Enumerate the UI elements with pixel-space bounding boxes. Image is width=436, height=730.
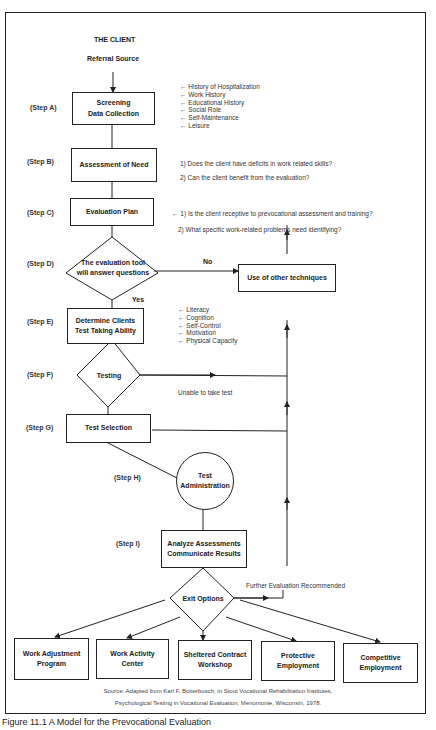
step-h-label: (Step H) bbox=[114, 474, 141, 481]
step-i-label: (Step I) bbox=[116, 540, 140, 547]
exit-options-decision[interactable]: Exit Options bbox=[175, 594, 231, 604]
evaluation-plan-box[interactable]: Evaluation Plan bbox=[70, 198, 154, 226]
step-b-q1: 1) Does the client have deficits in work… bbox=[180, 160, 332, 167]
exit-option-competitive-employment[interactable]: CompetitiveEmployment bbox=[343, 643, 418, 683]
step-d-label: (Step D) bbox=[27, 260, 54, 267]
step-b-q2: 2) Can the client benefit from the evalu… bbox=[180, 174, 309, 181]
exit-option-protective-employment[interactable]: ProtectiveEmployment bbox=[261, 641, 335, 681]
referral-source: Referral Source bbox=[87, 55, 139, 62]
assessment-box[interactable]: Assessment of Need bbox=[71, 148, 157, 182]
exit-option-work-adjustment[interactable]: Work AdjustmentProgram bbox=[14, 638, 89, 680]
step-c-q2: 2) What specific work-related problems n… bbox=[178, 226, 341, 233]
further-evaluation-label: Further Evaluation Recommended bbox=[246, 582, 345, 589]
test-selection-box[interactable]: Test Selection bbox=[66, 414, 151, 443]
unable-label: Unable to take test bbox=[178, 389, 232, 396]
screening-box[interactable]: Screening Data Collection bbox=[72, 92, 155, 125]
step-c-q1: ← 1) Is the client receptive to prevocat… bbox=[172, 210, 373, 217]
screening-line2: Data Collection bbox=[88, 109, 139, 120]
exit-option-work-activity[interactable]: Work ActivityCenter bbox=[96, 639, 169, 679]
screening-line1: Screening bbox=[97, 98, 131, 109]
step-b-label: (Step B) bbox=[27, 158, 54, 165]
step-g-label: (Step G) bbox=[26, 424, 53, 431]
test-administration-circle[interactable]: Test Administration bbox=[176, 452, 234, 510]
screening-notes: ← History of Hospitalization ← Work Hist… bbox=[180, 83, 260, 130]
source-line2: Psychological Testing in Vocational Eval… bbox=[0, 700, 436, 706]
figure-caption: Figure 11.1 A Model for the Prevocationa… bbox=[2, 717, 211, 727]
test-taking-ability-box[interactable]: Determine Clients Test Taking Ability bbox=[67, 308, 144, 344]
evaluation-tool-decision[interactable]: The evaluation tool will answer question… bbox=[72, 258, 154, 278]
other-techniques-box[interactable]: Use of other techniques bbox=[238, 264, 336, 292]
step-f-label: (Step F) bbox=[27, 371, 53, 378]
source-line1: Source: Adapted from Karl F. Botterbusch… bbox=[0, 688, 436, 694]
analyze-assessments-box[interactable]: Analyze Assessments Communicate Results bbox=[161, 530, 247, 568]
step-c-label: (Step C) bbox=[27, 209, 54, 216]
client-title: THE CLIENT bbox=[94, 36, 135, 43]
no-label: No bbox=[203, 258, 212, 265]
exit-option-sheltered-workshop[interactable]: Sheltered ContractWorkshop bbox=[178, 640, 252, 680]
yes-label: Yes bbox=[132, 296, 144, 303]
testing-decision[interactable]: Testing bbox=[82, 371, 136, 381]
step-a-label: (Step A) bbox=[30, 104, 57, 111]
step-e-label: (Step E) bbox=[27, 318, 53, 325]
test-ability-notes: ← Literacy ← Cognition ← Self-Control ← … bbox=[178, 306, 238, 345]
